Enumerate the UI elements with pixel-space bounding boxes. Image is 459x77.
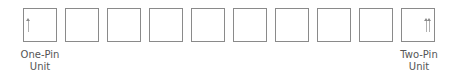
label-line: Unit — [389, 61, 449, 73]
unit-box — [359, 8, 393, 42]
unit-box — [107, 8, 141, 42]
pin-arrow-icon — [429, 18, 430, 32]
unit-box — [191, 8, 225, 42]
two-pin-unit-label: Two-Pin Unit — [389, 49, 449, 73]
one-pin-unit-label: One-Pin Unit — [10, 49, 70, 73]
unit-box — [275, 8, 309, 42]
label-line: Unit — [10, 61, 70, 73]
unit-box — [149, 8, 183, 42]
label-line: Two-Pin — [389, 49, 449, 61]
one-pin-unit-box — [23, 8, 57, 42]
two-pin-unit-box — [401, 8, 435, 42]
unit-box — [233, 8, 267, 42]
pin-arrow-icon — [28, 18, 29, 32]
unit-box — [317, 8, 351, 42]
label-line: One-Pin — [10, 49, 70, 61]
unit-box — [65, 8, 99, 42]
